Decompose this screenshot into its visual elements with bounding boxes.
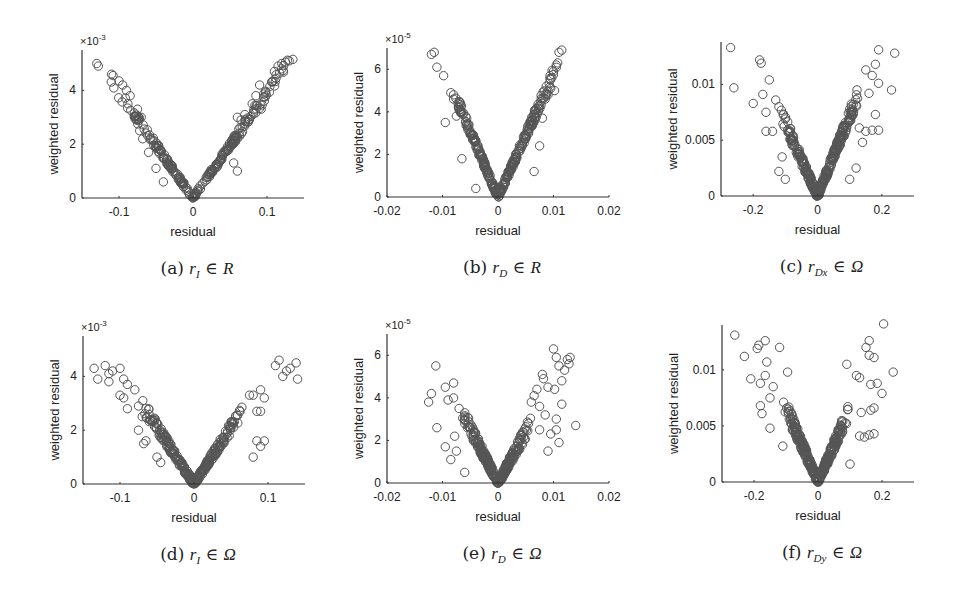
x-tick-label: -0.2 (744, 489, 765, 503)
x-axis-label: residual (795, 508, 841, 523)
x-tick-label: 0.2 (874, 489, 891, 503)
scatter-plot-f: -0.200.200.0050.01residualweighted resid… (0, 0, 958, 607)
data-points (731, 320, 898, 486)
y-tick-label: 0 (709, 475, 716, 489)
x-tick-label: 0 (815, 489, 822, 503)
y-tick-label: 0.005 (686, 419, 716, 433)
subfigure-caption-f: (f) rDy ∈ Ω (742, 542, 902, 564)
y-tick-label: 0.01 (693, 363, 717, 377)
y-axis-label: weighted residual (666, 353, 681, 455)
